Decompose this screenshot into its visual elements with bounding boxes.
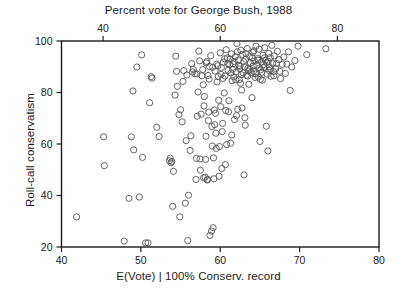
- data-point: [295, 43, 301, 49]
- data-point: [281, 54, 287, 60]
- data-point: [216, 173, 222, 179]
- data-point: [277, 75, 283, 81]
- svg-text:40: 40: [56, 254, 68, 266]
- data-point: [172, 92, 178, 98]
- data-point: [170, 203, 176, 209]
- data-point: [201, 94, 207, 100]
- svg-text:80: 80: [373, 254, 385, 266]
- data-point: [214, 61, 220, 67]
- data-point: [121, 238, 127, 244]
- data-point: [181, 68, 187, 74]
- data-point: [197, 58, 203, 64]
- svg-text:100: 100: [35, 35, 53, 47]
- data-point: [223, 47, 229, 53]
- data-point: [205, 117, 211, 123]
- data-point: [289, 64, 295, 70]
- data-point: [134, 64, 140, 70]
- data-point: [218, 104, 224, 110]
- data-point: [217, 50, 223, 56]
- svg-text:70: 70: [294, 254, 306, 266]
- data-point: [185, 237, 191, 243]
- data-point: [173, 53, 179, 59]
- data-point: [231, 116, 237, 122]
- data-point: [203, 133, 209, 139]
- data-point: [208, 53, 214, 59]
- data-point: [235, 106, 241, 112]
- data-point: [220, 120, 226, 126]
- data-point: [213, 130, 219, 136]
- data-point: [221, 90, 227, 96]
- data-point: [100, 134, 106, 140]
- data-point: [292, 57, 298, 63]
- data-point: [195, 89, 201, 95]
- data-point: [101, 163, 107, 169]
- data-point: [154, 124, 160, 130]
- data-point: [205, 72, 211, 78]
- data-point: [242, 115, 248, 121]
- svg-text:80: 80: [332, 22, 344, 34]
- data-point: [170, 168, 176, 174]
- data-point: [222, 162, 228, 168]
- data-point: [174, 83, 180, 89]
- data-point: [188, 133, 194, 139]
- chart-plot-area: 406080 4050607080 20406080100: [0, 0, 397, 294]
- data-point: [241, 172, 247, 178]
- svg-text:60: 60: [214, 254, 226, 266]
- data-point: [139, 52, 145, 58]
- data-point: [239, 87, 245, 93]
- svg-text:50: 50: [135, 254, 147, 266]
- data-point: [206, 76, 212, 82]
- data-point: [246, 81, 252, 87]
- data-point: [210, 155, 216, 161]
- data-point: [219, 129, 225, 135]
- data-point: [265, 148, 271, 154]
- data-point: [187, 147, 193, 153]
- data-point: [126, 195, 132, 201]
- data-point: [156, 133, 162, 139]
- data-point: [182, 200, 188, 206]
- data-point: [262, 45, 268, 51]
- data-point: [242, 122, 248, 128]
- data-point: [131, 147, 137, 153]
- data-point: [136, 194, 142, 200]
- data-point: [224, 141, 230, 147]
- svg-text:40: 40: [41, 189, 53, 201]
- data-point: [180, 78, 186, 84]
- data-point: [206, 109, 212, 115]
- data-point: [239, 105, 245, 111]
- svg-text:20: 20: [41, 241, 53, 253]
- data-point: [216, 97, 222, 103]
- data-point: [237, 80, 243, 86]
- data-point: [304, 52, 310, 58]
- data-point: [257, 138, 263, 144]
- data-point: [287, 87, 293, 93]
- data-point: [147, 100, 153, 106]
- svg-text:80: 80: [41, 86, 53, 98]
- data-point: [128, 134, 134, 140]
- top-axis-ticks: 406080: [97, 22, 343, 41]
- svg-text:60: 60: [41, 138, 53, 150]
- data-point: [323, 46, 329, 52]
- y-axis-ticks: 20406080100: [35, 35, 62, 253]
- data-point: [179, 119, 185, 125]
- data-point: [229, 132, 235, 138]
- data-point: [200, 82, 206, 88]
- data-point: [266, 67, 272, 73]
- svg-text:60: 60: [214, 22, 226, 34]
- data-point: [196, 48, 202, 54]
- data-point: [285, 49, 291, 55]
- data-point: [177, 214, 183, 220]
- data-point: [219, 165, 225, 171]
- data-point: [130, 88, 136, 94]
- data-point: [274, 48, 280, 54]
- data-point: [233, 113, 239, 119]
- data-point: [226, 98, 232, 104]
- data-point: [185, 192, 191, 198]
- data-point: [269, 42, 275, 48]
- data-point: [193, 176, 199, 182]
- scatter-plot-figure: Percent vote for George Bush, 1988 E(Vot…: [0, 0, 397, 294]
- svg-text:40: 40: [97, 22, 109, 34]
- data-points-layer: [73, 40, 328, 246]
- data-point: [173, 68, 179, 74]
- data-point: [227, 140, 233, 146]
